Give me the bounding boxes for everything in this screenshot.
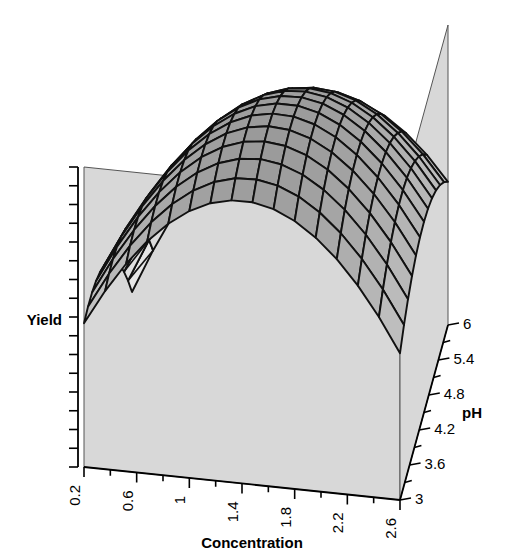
plot-canvas: 0.20.611.41.82.22.633.64.24.85.46 Concen…	[0, 0, 505, 560]
x-tick-label: 0.2	[66, 485, 83, 506]
x-axis-title: Concentration	[201, 534, 303, 551]
y-major-tick	[438, 358, 449, 360]
y-major-tick	[448, 323, 459, 325]
surface-plot-figure: 0.20.611.41.82.22.633.64.24.85.46 Concen…	[0, 0, 505, 560]
y-axis-title: pH	[462, 404, 482, 421]
x-tick-label: 0.6	[119, 491, 136, 512]
y-tick-label: 6	[463, 315, 471, 332]
z-axis-title: Yield	[27, 311, 62, 328]
y-major-tick	[400, 498, 411, 500]
y-tick-label: 3	[415, 490, 423, 507]
x-tick-label: 2.2	[329, 513, 346, 534]
x-tick-label: 1	[171, 496, 188, 504]
x-tick-label: 2.6	[382, 518, 399, 539]
x-tick-label: 1.8	[277, 507, 294, 528]
y-major-tick	[410, 463, 421, 465]
y-tick-label: 3.6	[425, 455, 446, 472]
y-tick-label: 4.8	[444, 385, 465, 402]
x-tick-label: 1.4	[224, 502, 241, 523]
y-tick-label: 5.4	[453, 350, 474, 367]
y-major-tick	[419, 428, 430, 430]
y-tick-label: 4.2	[434, 420, 455, 437]
y-major-tick	[429, 393, 440, 395]
